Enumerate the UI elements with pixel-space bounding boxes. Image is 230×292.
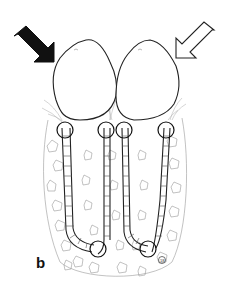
right-bulb [116,40,179,120]
left-bulb [53,40,116,120]
panel-label: b [36,254,45,271]
corner-mark: 18 [159,257,166,264]
marker-right-bottom [140,241,156,257]
svg-text:18: 18 [160,258,165,263]
botanical-diagram: 18 [0,0,230,292]
marker-left-bottom [90,241,106,257]
marker-right-top [158,122,174,138]
filled-arrow-icon [14,26,54,62]
marker-center-right-top [116,122,132,138]
marker-center-left-top [98,122,114,138]
outline-arrow-icon [176,22,214,58]
tubes [62,128,170,254]
